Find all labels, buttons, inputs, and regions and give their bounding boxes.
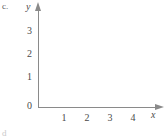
x-axis-line [38,107,158,108]
x-tick-label-1: 1 [58,113,70,123]
x-axis-arrowhead-icon [155,104,164,110]
y-tick-label-2: 2 [22,49,32,59]
coordinate-axes-figure: c. y x 3 2 1 0 1 2 3 4 d [0,0,164,140]
part-label: c. [2,1,8,11]
x-axis-label: x [151,110,155,120]
x-tick-label-3: 3 [104,113,116,123]
y-axis-arrowhead-icon [35,2,41,11]
y-tick-label-1: 1 [22,72,32,82]
x-tick-label-2: 2 [81,113,93,123]
next-part-label: d [2,128,7,138]
y-tick-label-3: 3 [22,26,32,36]
x-tick-label-4: 4 [127,113,139,123]
y-tick-label-0: 0 [22,101,32,111]
y-axis-label: y [26,2,30,12]
y-axis-line [38,10,39,108]
